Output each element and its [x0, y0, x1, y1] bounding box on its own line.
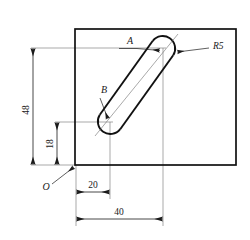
extension-lines: [31, 48, 166, 226]
slot-flank-upper-left: [100, 41, 153, 115]
slot-arc-b: [98, 115, 120, 134]
dimension-40: 40: [76, 207, 163, 219]
slot-flank-lower-right: [120, 55, 173, 129]
origin-label-text: O: [42, 181, 49, 192]
dimension-20: 20: [76, 180, 110, 192]
engineering-drawing-canvas: 48 18 20 40 A B R5: [0, 0, 250, 240]
dimension-20-text: 20: [88, 180, 98, 190]
drawing-svg: 48 18 20 40 A B R5: [0, 0, 250, 240]
origin-label-leader: [52, 167, 74, 184]
label-b-text: B: [101, 84, 107, 95]
radius-callout-text: R5: [212, 41, 224, 51]
slot-centerline: [95, 34, 178, 136]
dimension-48-text: 48: [21, 105, 31, 115]
dimension-40-text: 40: [114, 207, 124, 217]
origin-label-group: O: [42, 167, 74, 192]
label-b-leader: [100, 98, 108, 119]
dimension-48: 48: [21, 48, 33, 165]
radius-callout-group: R5: [177, 41, 224, 52]
dimension-18-text: 18: [45, 139, 55, 149]
radius-callout-leader: [177, 48, 209, 52]
label-a-text: A: [126, 35, 134, 46]
dimension-18: 18: [45, 122, 57, 165]
slot-arc-a: [153, 36, 175, 55]
plate-outline: [75, 29, 236, 165]
label-a-leader: [137, 49, 160, 51]
